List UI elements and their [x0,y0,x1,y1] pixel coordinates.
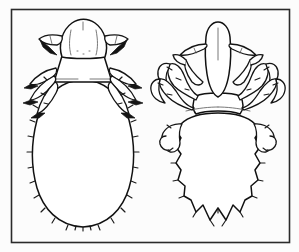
figure-root [0,0,299,252]
left-thorax [54,56,112,82]
illustration-plate [0,0,299,252]
